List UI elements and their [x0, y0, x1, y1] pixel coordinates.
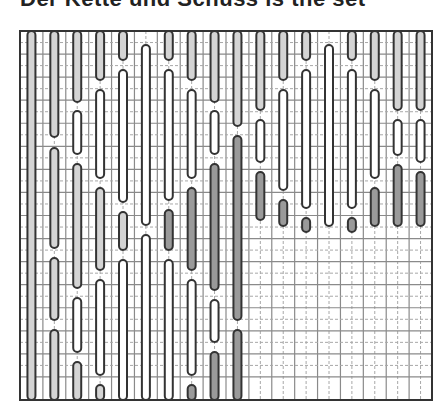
warp-bar-segment	[279, 90, 287, 190]
warp-bar-segment	[348, 31, 356, 60]
warp-bar-segment	[302, 70, 310, 208]
warp-bar-segment	[165, 260, 173, 400]
warp-bar-segment	[73, 362, 81, 400]
warp-bar-segment	[302, 31, 310, 60]
warp-bar-segment	[417, 172, 425, 226]
warp-bar-segment	[188, 280, 196, 375]
warp-bar-segment	[211, 164, 219, 290]
warp-bar-segment	[371, 90, 379, 178]
warp-bar-segment	[325, 45, 333, 226]
warp-bar-segment	[188, 385, 196, 400]
warp-bar-segment	[233, 136, 241, 320]
warp-bar-segment	[96, 90, 104, 178]
warp-bar-segment	[211, 31, 219, 102]
warp-bar-segment	[394, 31, 402, 110]
warp-bar-segment	[119, 212, 127, 250]
warp-bar-segment	[73, 111, 81, 154]
warp-bar-segment	[188, 90, 196, 178]
warp-bar-segment	[348, 218, 356, 232]
warp-bar-segment	[417, 120, 425, 162]
weaving-draft-diagram	[0, 0, 446, 413]
warp-bar-segment	[96, 31, 104, 80]
warp-bar-segment	[256, 172, 264, 220]
warp-bar-segment	[96, 385, 104, 400]
warp-bar-segment	[96, 188, 104, 270]
warp-bar-segment	[233, 330, 241, 400]
warp-bar-segment	[211, 111, 219, 154]
warp-bar-segment	[211, 352, 219, 400]
warp-bar-segment	[394, 120, 402, 155]
warp-bar-segment	[50, 31, 58, 137]
warp-bar-segment	[188, 188, 196, 270]
warp-bar-segment	[211, 300, 219, 342]
warp-bar-segment	[142, 235, 150, 400]
warp-bar-segment	[73, 164, 81, 288]
warp-bar-segment	[50, 258, 58, 320]
warp-bar-segment	[165, 70, 173, 200]
warp-bar-segment	[165, 210, 173, 250]
warp-bar-segment	[417, 31, 425, 110]
warp-bar-segment	[73, 31, 81, 102]
warp-bar-segment	[279, 200, 287, 226]
warp-bar-segment	[27, 31, 35, 400]
warp-bar-segment	[50, 148, 58, 248]
warp-bar-segment	[119, 70, 127, 202]
warp-bar-segment	[233, 31, 241, 126]
warp-bar-segment	[142, 45, 150, 225]
warp-bar-segment	[394, 165, 402, 226]
warp-bar-segment	[50, 330, 58, 400]
warp-bar-segment	[119, 260, 127, 400]
warp-bar-segment	[73, 298, 81, 352]
warp-bar-segment	[279, 31, 287, 80]
warp-bar-segment	[165, 31, 173, 60]
warp-bar-segment	[256, 31, 264, 110]
warp-bar-segment	[302, 218, 310, 232]
warp-bar-segment	[371, 188, 379, 226]
warp-bar-segment	[96, 280, 104, 375]
warp-bar-segment	[119, 31, 127, 60]
warp-bar-segment	[188, 31, 196, 80]
warp-bar-segment	[348, 70, 356, 208]
warp-bar-segment	[371, 31, 379, 80]
warp-bar-segment	[256, 120, 264, 162]
